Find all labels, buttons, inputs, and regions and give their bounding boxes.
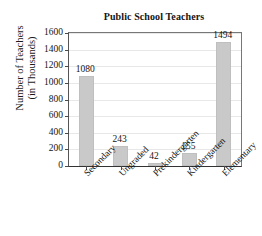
y-axis-tick [65,66,69,67]
y-axis-tick-label: 200 [49,144,63,154]
gridline [69,50,241,51]
y-axis-tick [65,83,69,84]
y-axis-tick [65,149,69,150]
y-axis-tick-label: 1600 [44,28,63,38]
y-axis-tick [65,133,69,134]
y-axis-tick-label: 600 [49,111,63,121]
gridline [69,116,241,117]
y-axis-tick [65,33,69,34]
bar-value-label: 1080 [76,64,95,74]
chart-screenshot: Public School Teachers Number of Teacher… [0,0,262,236]
y-axis-tick-label: 1400 [44,45,63,55]
bar-value-label: 42 [149,151,159,161]
y-axis-tick [65,50,69,51]
y-axis-tick-label: 400 [49,128,63,138]
y-axis-tick [65,166,69,167]
y-axis-title-line-1: Number of Teachers [14,25,26,110]
gridline [69,100,241,101]
bar [79,76,94,166]
y-axis-tick-label: 1000 [44,78,63,88]
y-axis-title: Number of Teachers (in Thousands) [12,10,40,126]
gridline [69,66,241,67]
y-axis-tick [65,100,69,101]
y-axis-tick-label: 800 [49,95,63,105]
bar-value-label: 243 [112,134,126,144]
chart-title: Public School Teachers [68,11,240,22]
bar-value-label: 1494 [213,30,232,40]
y-axis-tick-label: 1200 [44,61,63,71]
y-axis-tick-label: 0 [58,161,63,171]
y-axis-title-line-2: (in Thousands) [26,36,38,99]
gridline [69,83,241,84]
y-axis-tick [65,116,69,117]
gridline [69,133,241,134]
